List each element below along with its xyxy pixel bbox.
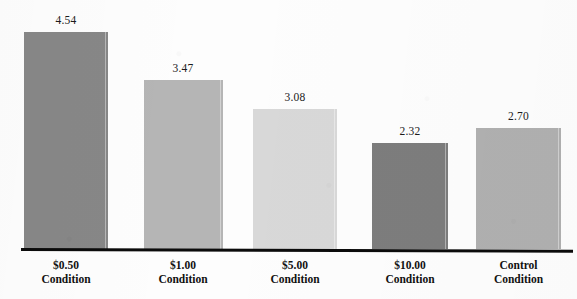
- x-axis-label-line1: Control: [476, 258, 561, 272]
- bar-fill: [24, 32, 108, 249]
- bar-highlight-seam: [334, 109, 335, 249]
- x-axis-label-line1: $1.00: [143, 258, 223, 272]
- bar-fill: [476, 128, 561, 249]
- bar-0-50-condition: [24, 32, 108, 249]
- x-axis-label-line2: Condition: [143, 272, 223, 286]
- x-axis-label-line2: Condition: [370, 272, 450, 286]
- x-axis-label-control-condition: Control Condition: [476, 258, 561, 286]
- bar-highlight-seam: [105, 32, 106, 249]
- bar-control-condition: [476, 128, 561, 249]
- x-axis-label-0-50-condition: $0.50 Condition: [24, 258, 108, 286]
- value-label-0-50-condition: 4.54: [24, 14, 108, 26]
- x-axis-label-line1: $0.50: [24, 258, 108, 272]
- x-axis-label-10-00-condition: $10.00 Condition: [370, 258, 450, 286]
- bar-fill: [372, 143, 448, 249]
- x-axis-label-5-00-condition: $5.00 Condition: [253, 258, 337, 286]
- x-axis-label-1-00-condition: $1.00 Condition: [143, 258, 223, 286]
- x-axis-label-line2: Condition: [476, 272, 561, 286]
- x-axis-label-line1: $10.00: [370, 258, 450, 272]
- value-label-5-00-condition: 3.08: [253, 91, 337, 103]
- value-label-control-condition: 2.70: [476, 110, 561, 122]
- bar-1-00-condition: [144, 80, 223, 249]
- bar-10-00-condition: [372, 143, 448, 249]
- value-label-10-00-condition: 2.32: [372, 125, 448, 137]
- x-axis-label-line2: Condition: [253, 272, 337, 286]
- bar-5-00-condition: [253, 109, 337, 249]
- bar-chart: 4.54 3.47 3.08 2.32 2.70 $0.50 Conditi: [0, 0, 577, 299]
- bar-highlight-seam: [445, 143, 446, 249]
- x-axis-label-line1: $5.00: [253, 258, 337, 272]
- bar-highlight-seam: [558, 128, 559, 249]
- bar-highlight-seam: [220, 80, 221, 249]
- bar-fill: [253, 109, 337, 249]
- x-axis-label-line2: Condition: [24, 272, 108, 286]
- plot-area: 4.54 3.47 3.08 2.32 2.70: [0, 0, 577, 299]
- value-label-1-00-condition: 3.47: [143, 62, 223, 74]
- bar-fill: [144, 80, 223, 249]
